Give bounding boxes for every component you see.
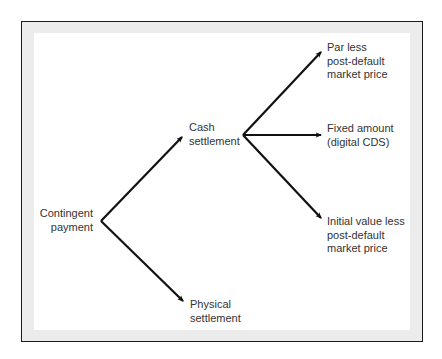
- node-line: post-default: [327, 229, 405, 243]
- node-initial-value-less: Initial value less post-default market p…: [327, 215, 405, 256]
- node-line: Fixed amount: [327, 122, 394, 136]
- node-par-less-post-default: Par less post-default market price: [327, 41, 388, 82]
- arrow-to-cash-settlement: [101, 137, 182, 221]
- node-line: Cash: [189, 121, 240, 135]
- arrow-to-physical-settlement: [101, 221, 183, 301]
- node-fixed-amount: Fixed amount (digital CDS): [327, 122, 394, 149]
- arrow-to-par-less: [243, 52, 321, 135]
- node-line: market price: [327, 68, 388, 82]
- node-line: settlement: [190, 312, 241, 326]
- node-contingent-payment: Contingent payment: [40, 207, 93, 234]
- node-line: post-default: [327, 55, 388, 69]
- node-line: market price: [327, 242, 405, 256]
- arrow-to-initial-value: [243, 135, 321, 218]
- node-line: Initial value less: [327, 215, 405, 229]
- node-line: Physical: [190, 298, 241, 312]
- node-line: Par less: [327, 41, 388, 55]
- node-line: Contingent: [40, 207, 93, 221]
- node-line: (digital CDS): [327, 136, 394, 150]
- node-cash-settlement: Cash settlement: [189, 121, 240, 148]
- node-physical-settlement: Physical settlement: [190, 298, 241, 325]
- node-line: settlement: [189, 135, 240, 149]
- node-line: payment: [40, 221, 93, 235]
